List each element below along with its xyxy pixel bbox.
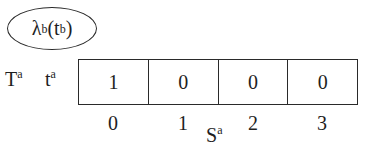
label-T-text: T <box>5 68 17 90</box>
lambda-arg-open: (t <box>47 17 59 40</box>
label-t-sup: a <box>51 67 56 81</box>
label-T: Ta <box>5 68 23 91</box>
array-cell-3: 0 <box>288 60 357 104</box>
axis-label-S-sup: a <box>217 123 222 137</box>
label-t: ta <box>45 68 56 91</box>
lambda-symbol: λ <box>32 17 42 40</box>
axis-label-S: Sa <box>206 124 222 147</box>
label-T-sup: a <box>17 67 22 81</box>
index-2: 2 <box>243 112 263 135</box>
axis-label-S-text: S <box>206 124 217 146</box>
lambda-node: λb(tb) <box>7 7 97 50</box>
index-1: 1 <box>173 112 193 135</box>
array-cell-2: 0 <box>219 60 289 104</box>
index-0: 0 <box>103 112 123 135</box>
array-cell-1: 0 <box>149 60 219 104</box>
array-cell-0: 1 <box>79 60 149 104</box>
lambda-arg-close: ) <box>66 17 73 40</box>
array-row: 1 0 0 0 <box>78 59 358 105</box>
index-3: 3 <box>312 112 332 135</box>
